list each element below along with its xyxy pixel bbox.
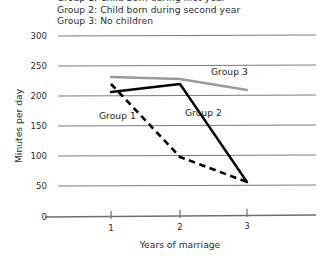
x-tick-label-1: 1: [108, 223, 113, 233]
y-tick-label-50: 50: [36, 181, 47, 191]
series-label-group-2: Group 2: [185, 107, 222, 118]
x-axis-title: Years of marriage: [139, 239, 221, 250]
y-tick-labels: 300 250 200 150 100 50 0: [31, 31, 47, 222]
y-tick-label-300: 300: [31, 31, 47, 41]
series-label-group-1: Group 1: [99, 110, 136, 121]
series-line-group-1: [111, 84, 247, 182]
x-tick-label-2: 2: [177, 222, 182, 232]
x-tick-label-3: 3: [244, 221, 249, 231]
y-tick-label-150: 150: [31, 121, 47, 131]
y-tick-label-200: 200: [31, 91, 47, 101]
line-chart-plot: 300 250 200 150 100 50 0 1 2 3 Years of …: [0, 0, 324, 261]
chart-figure: Group 1: Child born during first year Gr…: [0, 0, 324, 261]
y-tick-label-0: 0: [42, 212, 47, 222]
y-tick-label-250: 250: [31, 61, 47, 71]
x-tick-labels: 1 2 3: [108, 221, 249, 233]
x-axis: [45, 209, 316, 219]
series-line-group-2: [111, 84, 247, 182]
y-axis-title: Minutes per day: [13, 88, 24, 163]
y-tick-label-100: 100: [31, 151, 47, 161]
series-label-group-3: Group 3: [211, 66, 248, 77]
